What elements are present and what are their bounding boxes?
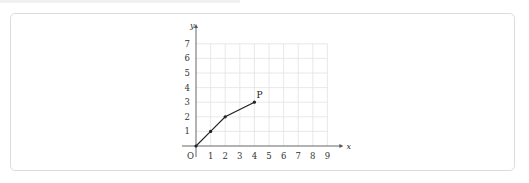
y-tick-label: 1 bbox=[185, 126, 190, 136]
y-tick-label: 3 bbox=[185, 97, 190, 107]
x-tick-label: 9 bbox=[325, 151, 330, 161]
y-tick-label: 4 bbox=[185, 83, 190, 93]
data-point bbox=[194, 144, 197, 147]
x-tick-label: 1 bbox=[208, 151, 213, 161]
x-tick-label: 3 bbox=[237, 151, 242, 161]
x-tick-label: 7 bbox=[295, 151, 300, 161]
data-point bbox=[253, 101, 256, 104]
annotations: P bbox=[256, 90, 262, 100]
y-tick-label: 6 bbox=[185, 53, 190, 63]
y-tick-label: 7 bbox=[185, 39, 190, 49]
x-tick-label: 8 bbox=[310, 151, 315, 161]
y-axis-arrow-icon bbox=[194, 24, 198, 28]
axes: xy bbox=[182, 21, 351, 157]
x-tick-label: 4 bbox=[252, 151, 257, 161]
origin-label: O bbox=[187, 151, 194, 161]
y-tick-label: 5 bbox=[185, 68, 190, 78]
data-point bbox=[224, 115, 227, 118]
y-tick-label: 2 bbox=[185, 112, 190, 122]
point-label: P bbox=[256, 90, 262, 100]
x-axis-label: x bbox=[346, 142, 351, 151]
x-tick-label: 2 bbox=[222, 151, 227, 161]
x-tick-label: 6 bbox=[281, 151, 286, 161]
coordinate-plot: xy O1234567891234567 P bbox=[0, 0, 529, 183]
x-axis-arrow-icon bbox=[339, 144, 343, 148]
y-axis-label: y bbox=[189, 21, 195, 30]
data-point bbox=[209, 130, 212, 133]
x-tick-label: 5 bbox=[266, 151, 271, 161]
